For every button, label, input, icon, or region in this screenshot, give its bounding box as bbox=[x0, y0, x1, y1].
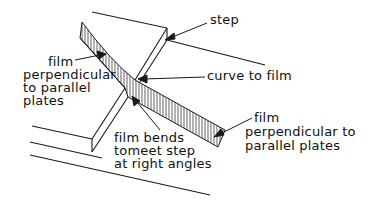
label-film-right-3: parallel plates bbox=[245, 140, 340, 152]
label-step: step bbox=[210, 14, 239, 26]
step-face-back bbox=[140, 40, 167, 82]
label-film-right-2: perpendicular to bbox=[245, 126, 356, 138]
step-top-right-edge bbox=[167, 40, 265, 65]
label-curve-to-film: curve to film bbox=[207, 70, 292, 82]
upper-plate-edge bbox=[92, 12, 167, 28]
arrow-film-left bbox=[75, 55, 100, 60]
label-film-right-1: film bbox=[254, 112, 279, 124]
bottom-plate-line-1 bbox=[32, 126, 92, 139]
label-film-left-4: plates bbox=[23, 95, 64, 107]
step-face-front bbox=[135, 28, 167, 80]
arrow-step bbox=[170, 23, 207, 38]
arrow-curve bbox=[144, 77, 205, 79]
bottom-plate-line-2 bbox=[30, 142, 102, 158]
film-strip bbox=[80, 22, 225, 147]
label-film-bends-3: at right angles bbox=[114, 158, 212, 170]
